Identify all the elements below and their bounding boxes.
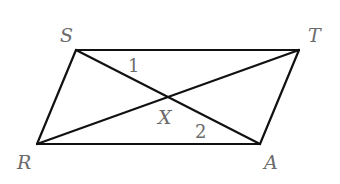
side-RS xyxy=(37,50,76,144)
diagonal-RT xyxy=(37,50,299,144)
vertex-label-T: T xyxy=(308,24,322,46)
vertex-label-R: R xyxy=(16,151,31,173)
intersection-label-X: X xyxy=(156,106,173,128)
vertex-label-A: A xyxy=(262,151,278,173)
side-TA xyxy=(260,50,299,144)
parallelogram-diagram: S T R A X 1 2 xyxy=(0,0,340,184)
angle-label-1: 1 xyxy=(128,55,139,76)
angle-label-2: 2 xyxy=(195,121,206,142)
vertex-label-S: S xyxy=(60,24,73,46)
